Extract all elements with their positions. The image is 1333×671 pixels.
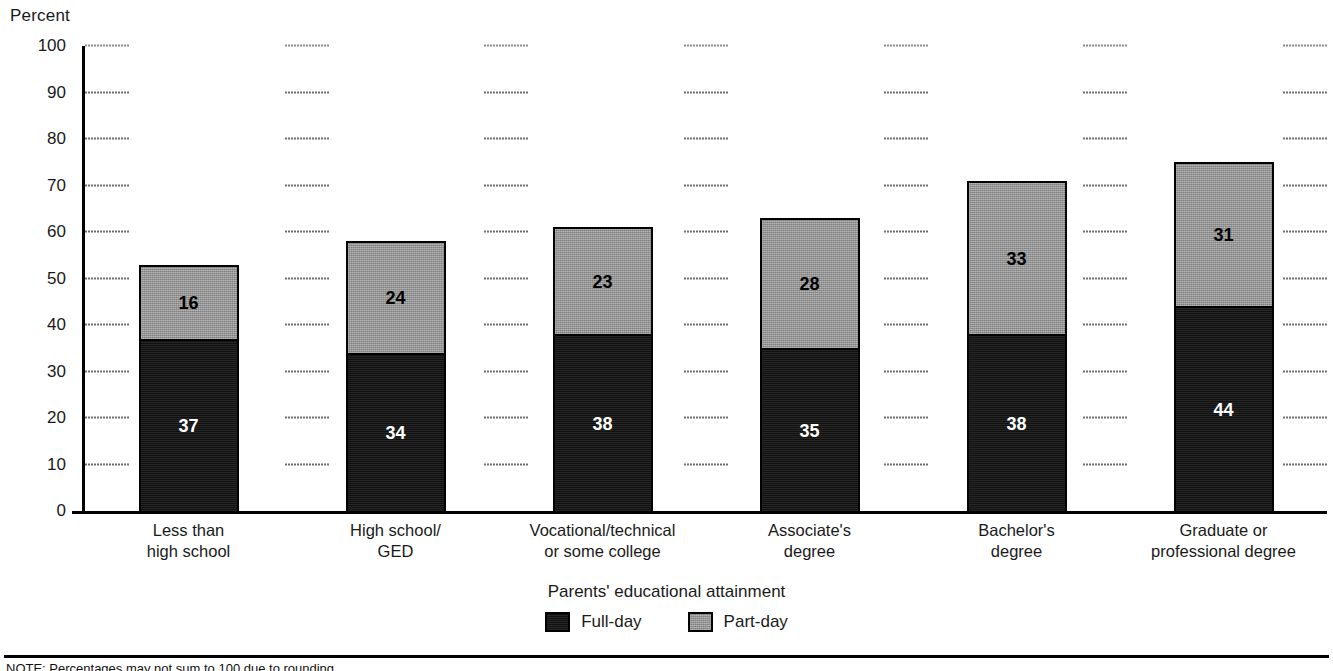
x-axis-category-label: Less thanhigh school	[84, 520, 294, 563]
x-axis-category-label: Graduate orprofessional degree	[1119, 520, 1329, 563]
bar-group[interactable]: 2835	[760, 218, 860, 511]
y-axis-tick-label: 50	[6, 269, 66, 289]
y-axis-tick-label: 100	[6, 36, 66, 56]
bar-group[interactable]: 2338	[553, 227, 653, 511]
bar-value-label: 31	[1213, 226, 1233, 244]
legend-label: Full-day	[581, 612, 641, 632]
x-axis-category-label: Vocational/technicalor some college	[498, 520, 708, 563]
bar-segment-part[interactable]: 23	[553, 227, 653, 334]
legend-label: Part-day	[724, 612, 788, 632]
x-axis-category-labels: Less thanhigh schoolHigh school/GEDVocat…	[85, 520, 1327, 572]
category-label-line: Less than	[153, 521, 225, 539]
chart-note: NOTE: Percentages may not sum to 100 due…	[6, 661, 338, 671]
bar-group[interactable]: 2434	[346, 241, 446, 511]
category-label-line: High school/	[350, 521, 441, 539]
legend-item[interactable]: Part-day	[688, 612, 788, 632]
bar-segment-part[interactable]: 16	[139, 265, 239, 339]
x-axis-category-label: Bachelor'sdegree	[912, 520, 1122, 563]
bar-value-label: 38	[592, 415, 612, 433]
bar-segment-full[interactable]: 44	[1174, 306, 1274, 511]
bar-segment-part[interactable]: 28	[760, 218, 860, 348]
y-axis-tick-label: 70	[6, 176, 66, 196]
bar-group[interactable]: 1637	[139, 265, 239, 511]
bar-group[interactable]: 3338	[967, 181, 1067, 511]
legend-item[interactable]: Full-day	[545, 612, 641, 632]
bar-value-label: 35	[799, 422, 819, 440]
footer-divider	[4, 655, 1329, 658]
x-axis-category-label: High school/GED	[291, 520, 501, 563]
bar-series-container: 163724342338283533383144	[85, 46, 1327, 511]
y-axis-tick-label: 10	[6, 455, 66, 475]
y-axis-tick-label: 90	[6, 83, 66, 103]
bar-segment-full[interactable]: 38	[553, 334, 653, 511]
y-axis-tick-label: 40	[6, 315, 66, 335]
category-label-line: Graduate or	[1179, 521, 1267, 539]
bar-value-label: 16	[178, 294, 198, 312]
bar-value-label: 37	[178, 417, 198, 435]
category-label-line: GED	[291, 541, 501, 562]
y-axis-tick-label: 30	[6, 362, 66, 382]
bar-segment-part[interactable]: 24	[346, 241, 446, 353]
y-axis-tick-label: 0	[6, 501, 66, 521]
category-label-line: high school	[84, 541, 294, 562]
chart-figure: Percent 1009080706050403020100 163724342…	[0, 0, 1333, 671]
bar-value-label: 33	[1006, 250, 1026, 268]
bar-segment-full[interactable]: 34	[346, 353, 446, 511]
y-axis-tick-label: 60	[6, 222, 66, 242]
bar-value-label: 38	[1006, 415, 1026, 433]
category-label-line: degree	[705, 541, 915, 562]
bar-value-label: 28	[799, 275, 819, 293]
x-axis-title: Parents' educational attainment	[0, 582, 1333, 602]
bar-value-label: 23	[592, 273, 612, 291]
y-axis-tick-label: 80	[6, 129, 66, 149]
x-axis-line	[72, 511, 1327, 514]
category-label-line: Bachelor's	[978, 521, 1055, 539]
bar-group[interactable]: 3144	[1174, 162, 1274, 511]
bar-segment-full[interactable]: 37	[139, 339, 239, 511]
legend-swatch-part	[688, 612, 713, 632]
category-label-line: degree	[912, 541, 1122, 562]
bar-segment-full[interactable]: 38	[967, 334, 1067, 511]
bar-segment-part[interactable]: 31	[1174, 162, 1274, 306]
category-label-line: or some college	[498, 541, 708, 562]
bar-value-label: 34	[385, 424, 405, 442]
bar-value-label: 44	[1213, 401, 1233, 419]
y-axis-tick-label: 20	[6, 408, 66, 428]
x-axis-category-label: Associate'sdegree	[705, 520, 915, 563]
category-label-line: Associate's	[768, 521, 851, 539]
bar-value-label: 24	[385, 289, 405, 307]
y-axis-title: Percent	[10, 6, 70, 26]
bar-segment-part[interactable]: 33	[967, 181, 1067, 334]
chart-legend: Full-dayPart-day	[0, 612, 1333, 632]
bar-segment-full[interactable]: 35	[760, 348, 860, 511]
category-label-line: Vocational/technical	[530, 521, 676, 539]
legend-swatch-full	[545, 612, 570, 632]
plot-area: 1009080706050403020100 16372434233828353…	[82, 46, 1327, 511]
category-label-line: professional degree	[1119, 541, 1329, 562]
